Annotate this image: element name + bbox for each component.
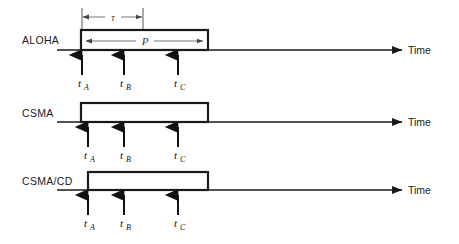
event-tc-csma: t C <box>174 127 186 164</box>
event-sub-tc-aloha: C <box>180 83 186 92</box>
event-ta-csma: t A <box>84 127 95 164</box>
event-sub-tc-csma-cd: C <box>180 223 186 232</box>
row-csma: CSMA Time t A t B t C <box>22 103 431 164</box>
time-axis-label-aloha: Time <box>408 44 431 56</box>
packet-box-csma-cd <box>88 172 208 190</box>
event-label-tb-csma-cd: t <box>120 217 124 229</box>
event-ta-aloha: t A <box>78 55 89 92</box>
event-tb-aloha: t B <box>120 55 131 92</box>
time-axis-label-csma-cd: Time <box>408 184 431 196</box>
event-tc-aloha: t C <box>174 55 186 92</box>
event-label-ta-aloha: t <box>78 77 82 89</box>
event-label-ta-csma-cd: t <box>84 217 88 229</box>
event-label-tb-aloha: t <box>120 77 124 89</box>
event-label-tb-csma: t <box>120 149 124 161</box>
event-sub-tb-csma-cd: B <box>126 223 131 232</box>
row-label-aloha: ALOHA <box>22 34 59 46</box>
row-label-csma: CSMA <box>22 107 54 119</box>
event-sub-ta-csma: A <box>89 155 95 164</box>
protocol-timing-diagram: ALOHA τ Time P t A t B <box>0 0 459 244</box>
event-sub-ta-aloha: A <box>83 83 89 92</box>
event-tb-csma-cd: t B <box>120 195 131 232</box>
event-sub-tb-csma: B <box>126 155 131 164</box>
tau-measurement: τ <box>82 8 143 30</box>
event-sub-tb-aloha: B <box>126 83 131 92</box>
row-csma-cd: CSMA/CD Time t A t B t C <box>22 172 431 232</box>
event-sub-ta-csma-cd: A <box>89 223 95 232</box>
packet-box-csma <box>81 103 208 122</box>
event-tc-csma-cd: t C <box>174 195 186 232</box>
event-label-ta-csma: t <box>84 149 88 161</box>
event-label-tc-csma-cd: t <box>174 217 178 229</box>
event-label-tc-csma: t <box>174 149 178 161</box>
tau-label: τ <box>111 13 115 23</box>
time-axis-label-csma: Time <box>408 116 431 128</box>
row-aloha: ALOHA τ Time P t A t B <box>22 8 431 92</box>
row-label-csma-cd: CSMA/CD <box>22 175 73 187</box>
event-tb-csma: t B <box>120 127 131 164</box>
event-label-tc-aloha: t <box>174 77 178 89</box>
event-ta-csma-cd: t A <box>84 195 95 232</box>
event-sub-tc-csma: C <box>180 155 186 164</box>
p-label: P <box>141 35 149 47</box>
